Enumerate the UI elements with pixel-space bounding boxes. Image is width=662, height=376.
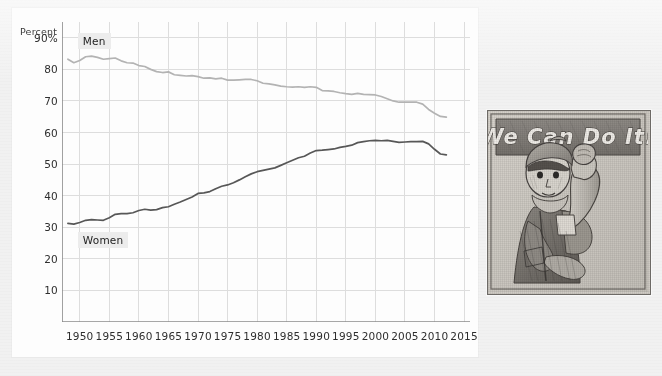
plot-area (62, 22, 470, 322)
x-tick-label: 1995 (332, 330, 360, 342)
y-tick-label: 10 (44, 284, 58, 296)
x-tick-label: 1965 (155, 330, 183, 342)
y-tick-label: 50 (44, 158, 58, 170)
x-tick-label: 1960 (125, 330, 153, 342)
axis-lines (62, 22, 470, 322)
gridlines (62, 22, 470, 322)
chart-card: Percent 90%8070605040302010 195019551960… (12, 8, 478, 357)
x-tick-label: 2005 (391, 330, 419, 342)
y-axis-tick-labels: 90%8070605040302010 (18, 22, 58, 322)
x-tick-label: 2000 (362, 330, 390, 342)
y-tick-label: 70 (44, 95, 58, 107)
rosie-sketch-svg: We Can Do It! (488, 111, 648, 292)
x-tick-label: 1990 (302, 330, 330, 342)
x-axis-tick-labels: 1950195519601965197019751980198519901995… (62, 330, 470, 348)
y-tick-label: 30 (44, 221, 58, 233)
x-tick-label: 1980 (243, 330, 271, 342)
y-tick-label: 80 (44, 63, 58, 75)
series-label-women: Women (78, 232, 129, 248)
y-tick-label: 60 (44, 127, 58, 139)
y-tick-label: 40 (44, 190, 58, 202)
series-label-men: Men (78, 33, 111, 49)
x-tick-label: 1955 (96, 330, 124, 342)
line-chart-svg (62, 22, 470, 322)
x-tick-label: 1985 (273, 330, 301, 342)
rosie-the-riveter-illustration: We Can Do It! (487, 110, 651, 295)
y-tick-label: 20 (44, 253, 58, 265)
y-tick-label: 90% (34, 32, 58, 44)
x-tick-label: 2015 (450, 330, 478, 342)
speech-bubble-text: We Can Do It! (488, 125, 648, 149)
x-tick-label: 1970 (184, 330, 212, 342)
x-tick-label: 1950 (66, 330, 94, 342)
x-tick-label: 1975 (214, 330, 242, 342)
x-tick-label: 2010 (421, 330, 449, 342)
